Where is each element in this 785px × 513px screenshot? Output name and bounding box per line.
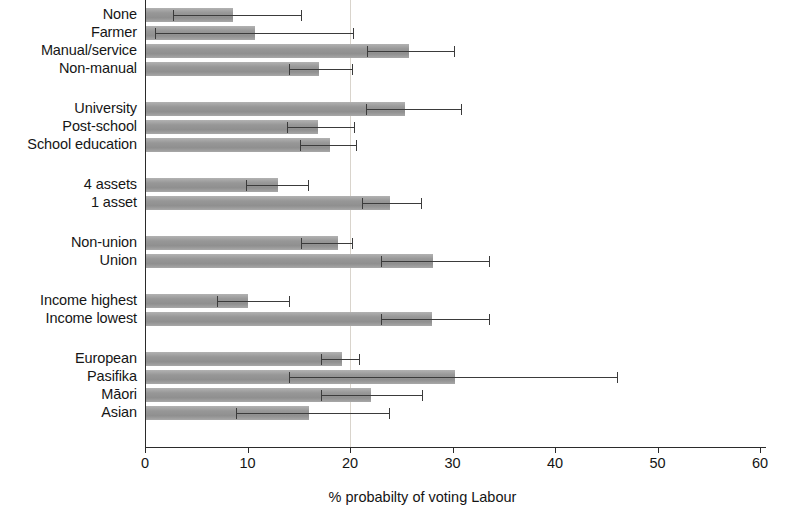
error-bar-cap-high xyxy=(461,104,462,115)
x-axis-tick xyxy=(760,448,761,453)
error-bar-cap-low xyxy=(381,256,382,267)
error-bar-cap-low xyxy=(217,296,218,307)
error-bar-line xyxy=(246,185,308,186)
x-axis-line xyxy=(145,447,766,448)
error-bar-cap-high xyxy=(421,198,422,209)
error-bar-line xyxy=(155,33,353,34)
category-label: Income highest xyxy=(40,292,137,308)
error-bar-line xyxy=(287,127,354,128)
error-bar-cap-low xyxy=(301,238,302,249)
category-label: Farmer xyxy=(91,24,137,40)
category-label: Māori xyxy=(101,386,137,402)
y-axis-line xyxy=(145,0,146,447)
error-bar-cap-low xyxy=(362,198,363,209)
error-bar-line xyxy=(289,377,617,378)
error-bar-cap-high xyxy=(489,314,490,325)
x-axis-tick-label: 30 xyxy=(428,455,478,471)
error-bar-cap-high xyxy=(308,180,309,191)
error-bar-line xyxy=(300,145,356,146)
error-bar-cap-low xyxy=(321,390,322,401)
error-bar-line xyxy=(362,203,420,204)
plot-area: NoneFarmerManual/serviceNon-manualUniver… xyxy=(0,0,785,513)
error-bar-cap-low xyxy=(367,46,368,57)
error-bar-cap-low xyxy=(155,28,156,39)
error-bar-cap-high xyxy=(489,256,490,267)
error-bar-cap-high xyxy=(354,122,355,133)
x-axis-title: % probabilty of voting Labour xyxy=(0,489,785,506)
error-bar-cap-high xyxy=(353,28,354,39)
error-bar-cap-low xyxy=(366,104,367,115)
error-bar-line xyxy=(381,261,490,262)
error-bar-line xyxy=(173,15,301,16)
error-bar-line xyxy=(217,301,289,302)
category-label: School education xyxy=(27,136,137,152)
category-label: Asian xyxy=(101,404,137,420)
category-label: European xyxy=(75,350,137,366)
x-axis-tick xyxy=(658,448,659,453)
x-axis-tick-label: 60 xyxy=(735,455,785,471)
error-bar-cap-high xyxy=(389,408,390,419)
error-bar-line xyxy=(321,395,421,396)
category-label: Union xyxy=(100,252,137,268)
error-bar-line xyxy=(236,413,389,414)
error-bar-cap-low xyxy=(236,408,237,419)
x-axis-tick-label: 40 xyxy=(530,455,580,471)
error-bar-cap-high xyxy=(359,354,360,365)
category-label: Post-school xyxy=(62,118,137,134)
error-bar-line xyxy=(289,69,353,70)
error-bar-cap-low xyxy=(381,314,382,325)
error-bar-cap-low xyxy=(246,180,247,191)
error-bar-cap-low xyxy=(289,64,290,75)
error-bar-cap-high xyxy=(352,238,353,249)
x-axis-tick-label: 10 xyxy=(223,455,273,471)
bar xyxy=(145,196,390,210)
error-bar-cap-low xyxy=(173,10,174,21)
x-axis-tick xyxy=(145,448,146,453)
x-axis-tick-label: 50 xyxy=(633,455,683,471)
category-label: Income lowest xyxy=(46,310,137,326)
error-bar-cap-high xyxy=(289,296,290,307)
category-label: Non-union xyxy=(71,234,137,250)
category-label: 1 asset xyxy=(91,194,137,210)
x-axis-tick-label: 0 xyxy=(120,455,170,471)
x-axis-tick xyxy=(248,448,249,453)
x-axis-tick xyxy=(555,448,556,453)
error-bar-line xyxy=(367,51,453,52)
category-label: University xyxy=(74,100,137,116)
category-label: Manual/service xyxy=(41,42,137,58)
error-bar-cap-high xyxy=(352,64,353,75)
error-bar-cap-high xyxy=(617,372,618,383)
error-bar-line xyxy=(321,359,359,360)
x-axis-tick-label: 20 xyxy=(325,455,375,471)
error-bar-cap-high xyxy=(422,390,423,401)
error-bar-cap-low xyxy=(300,140,301,151)
category-label: None xyxy=(103,6,137,22)
category-label: Pasifika xyxy=(87,368,137,384)
bar xyxy=(145,352,342,366)
chart-figure: NoneFarmerManual/serviceNon-manualUniver… xyxy=(0,0,785,513)
category-label: Non-manual xyxy=(59,60,137,76)
error-bar-cap-high xyxy=(356,140,357,151)
error-bar-cap-high xyxy=(454,46,455,57)
error-bar-cap-low xyxy=(289,372,290,383)
error-bar-line xyxy=(301,243,352,244)
error-bar-line xyxy=(366,109,460,110)
error-bar-cap-high xyxy=(301,10,302,21)
x-axis-tick xyxy=(350,448,351,453)
x-axis-tick xyxy=(453,448,454,453)
category-label: 4 assets xyxy=(84,176,137,192)
error-bar-cap-low xyxy=(287,122,288,133)
error-bar-line xyxy=(381,319,490,320)
error-bar-cap-low xyxy=(321,354,322,365)
